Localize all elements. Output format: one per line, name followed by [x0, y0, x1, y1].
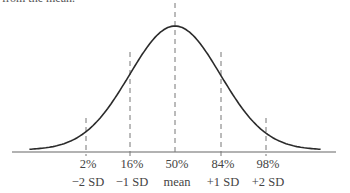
sd-label: −2 SD [72, 175, 104, 190]
percentile-label: 84% [212, 157, 235, 172]
sd-label: mean [163, 175, 190, 190]
sd-label: −1 SD [116, 175, 148, 190]
percentile-label: 98% [257, 157, 280, 172]
sd-label: +2 SD [252, 175, 284, 190]
percentile-label: 2% [80, 157, 97, 172]
percentile-label: 16% [121, 157, 144, 172]
sd-label: +1 SD [207, 175, 239, 190]
percentile-label: 50% [166, 157, 189, 172]
